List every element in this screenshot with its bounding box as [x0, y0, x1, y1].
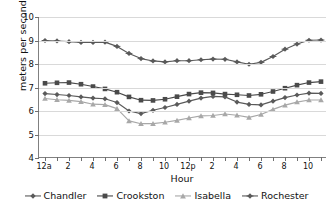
series-rochester — [42, 37, 325, 66]
gridline-y — [39, 41, 326, 42]
plot-area: 45678910 — [38, 17, 326, 158]
y-axis-tick — [35, 64, 39, 65]
data-point-marker — [138, 56, 145, 61]
data-point-marker — [90, 95, 95, 100]
data-point-marker — [174, 58, 181, 63]
data-point-marker — [43, 81, 48, 86]
data-point-marker — [234, 99, 239, 104]
series-line — [45, 40, 321, 64]
data-point-marker — [222, 57, 229, 62]
data-point-marker — [174, 102, 179, 107]
data-point-marker — [30, 193, 35, 198]
gridline-y — [39, 111, 326, 112]
gridline-y — [39, 64, 326, 65]
data-point-marker — [186, 58, 193, 63]
line-chart: meters per second 45678910 12a24681012p2… — [0, 0, 333, 212]
x-axis-tick — [261, 157, 262, 161]
data-point-marker — [115, 90, 120, 95]
y-axis-tick-label: 10 — [17, 17, 34, 18]
data-point-marker — [271, 89, 276, 94]
data-point-marker — [270, 99, 275, 104]
legend-item-rochester[interactable]: Rochester — [242, 190, 309, 201]
y-axis-tick-label: 8 — [17, 64, 34, 65]
legend-label: Crookston — [116, 190, 164, 201]
data-point-marker — [103, 193, 108, 198]
data-point-marker — [163, 97, 168, 102]
data-point-marker — [294, 41, 301, 46]
y-axis-tick — [35, 158, 39, 159]
data-point-marker — [319, 79, 324, 84]
data-point-marker — [187, 92, 192, 97]
x-axis-tick — [117, 157, 118, 161]
x-axis-tick — [177, 157, 178, 161]
y-axis-tick — [35, 41, 39, 42]
data-point-marker — [246, 102, 251, 107]
data-point-marker — [66, 93, 71, 98]
x-axis-tick — [69, 157, 70, 161]
x-axis-tick — [45, 157, 46, 161]
x-axis-tick — [297, 157, 298, 161]
gridline-y — [39, 88, 326, 89]
x-axis-tick — [237, 157, 238, 161]
x-axis-tick-label: 12p — [176, 162, 200, 171]
legend-item-chandler[interactable]: Chandler — [25, 190, 87, 201]
x-axis-tick-label: 4 — [80, 162, 104, 171]
data-point-marker — [259, 92, 264, 97]
x-axis-tick — [273, 157, 274, 161]
legend-marker-triangle-icon — [175, 191, 191, 201]
data-point-marker — [258, 102, 263, 107]
data-point-marker — [246, 193, 253, 198]
data-point-marker — [210, 56, 217, 61]
legend-label: Chandler — [44, 190, 87, 201]
x-axis-tick — [249, 157, 250, 161]
data-point-marker — [55, 81, 60, 86]
data-point-marker — [307, 80, 312, 85]
data-point-marker — [247, 93, 252, 98]
x-axis-tick — [309, 157, 310, 161]
data-point-marker — [102, 96, 107, 101]
data-point-marker — [54, 92, 59, 97]
y-axis-tick — [35, 17, 39, 18]
y-axis-tick-label: 6 — [17, 111, 34, 112]
data-point-marker — [79, 82, 84, 87]
data-point-marker — [199, 90, 204, 95]
data-point-marker — [150, 58, 157, 63]
y-axis-tick-label: 7 — [17, 88, 34, 89]
y-axis-tick-label: 5 — [17, 135, 34, 136]
x-axis-tick — [141, 157, 142, 161]
data-point-marker — [127, 95, 132, 100]
x-axis-tick — [57, 157, 58, 161]
x-axis-tick-label: 8 — [128, 162, 152, 171]
data-point-marker — [42, 91, 47, 96]
data-point-marker — [294, 92, 299, 97]
x-axis-tick-label: 8 — [272, 162, 296, 171]
legend-item-crookston[interactable]: Crookston — [97, 190, 164, 201]
x-axis-tick — [321, 157, 322, 161]
series-chandler — [42, 91, 323, 117]
x-axis-title: Hour — [38, 173, 326, 184]
x-axis-tick-label: 12a — [32, 162, 56, 171]
data-point-marker — [282, 95, 287, 100]
legend-label: Rochester — [261, 190, 309, 201]
x-axis-tick — [213, 157, 214, 161]
x-axis-tick — [153, 157, 154, 161]
x-axis-tick-label: 6 — [248, 162, 272, 171]
data-point-marker — [78, 94, 83, 99]
data-point-marker — [198, 95, 203, 100]
x-axis-tick — [93, 157, 94, 161]
chart-legend: ChandlerCrookstonIsabellaRochester — [0, 190, 333, 201]
x-axis-tick — [285, 157, 286, 161]
x-axis-tick-label: 4 — [224, 162, 248, 171]
y-axis-tick — [35, 135, 39, 136]
data-point-marker — [175, 94, 180, 99]
legend-item-isabella[interactable]: Isabella — [175, 190, 231, 201]
data-point-marker — [235, 92, 240, 97]
x-axis-tick — [105, 157, 106, 161]
x-axis-tick — [165, 157, 166, 161]
data-point-marker — [162, 105, 167, 110]
legend-marker-diamond-plus-icon — [242, 191, 258, 201]
x-axis-tick-label: 6 — [104, 162, 128, 171]
x-axis-tick — [81, 157, 82, 161]
data-point-marker — [186, 99, 191, 104]
x-axis-tick — [201, 157, 202, 161]
